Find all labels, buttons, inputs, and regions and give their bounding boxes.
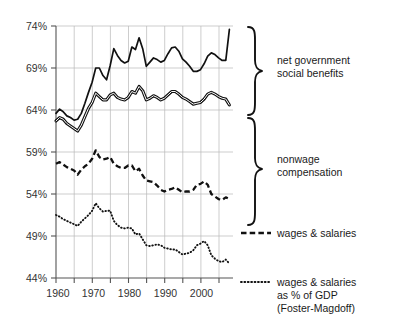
x-tick-label-1960: 1960 [46,287,70,299]
legend-entry-wages-and-salaries: wages & salaries [241,227,356,239]
brace-net-government-social-benefits [248,27,262,115]
y-tick-label-59: 59% [26,146,47,158]
x-tick-label-2000: 2000 [190,287,214,299]
legend-entry-wages-and-salaries-pct-gdp: wages & salaries as % of GDP (Foster-Mag… [241,276,356,314]
y-tick-label-69: 69% [26,62,47,74]
legend-label-pct-gdp-line3: (Foster-Magdoff) [277,302,355,314]
annotation-label-line1: net government [277,54,350,66]
legend-label-pct-gdp-line2: as % of GDP [277,289,338,301]
economic-shares-line-chart: 74% 69% 64% 59% 54% 49% 44% 1960 1970 19… [0,0,395,320]
series-wages-and-salaries [56,150,229,200]
legend-label-pct-gdp-line1: wages & salaries [276,276,356,288]
y-tick-label-44: 44% [26,272,47,284]
series-net-government-social-benefits [56,29,229,120]
y-tick-label-49: 49% [26,230,47,242]
series-group [56,29,229,263]
y-tick-labels: 74% 69% 64% 59% 54% 49% 44% [26,20,47,284]
y-tick-label-64: 64% [26,104,47,116]
annotation-label-line2: social benefits [277,67,344,79]
x-tick-label-1980: 1980 [118,287,142,299]
series-wages-and-salaries-pct-gdp [56,203,229,263]
annotation-label-line1: nonwage [277,153,320,165]
annotation-net-government-social-benefits: net government social benefits [277,54,350,79]
x-tick-label-1970: 1970 [82,287,106,299]
annotation-label-line2: compensation [277,166,343,178]
chart-figure: 74% 69% 64% 59% 54% 49% 44% 1960 1970 19… [0,0,395,320]
y-tick-label-74: 74% [26,20,47,32]
y-tick-label-54: 54% [26,188,47,200]
x-tick-labels: 1960 1970 1980 1990 2000 [46,287,213,299]
annotation-nonwage-compensation: nonwage compensation [277,153,343,178]
legend-label-wages-and-salaries: wages & salaries [276,227,356,239]
x-tick-label-1990: 1990 [154,287,178,299]
brace-nonwage-compensation [248,118,262,225]
x-axis-ticks [56,278,219,283]
y-axis-ticks [51,26,56,278]
